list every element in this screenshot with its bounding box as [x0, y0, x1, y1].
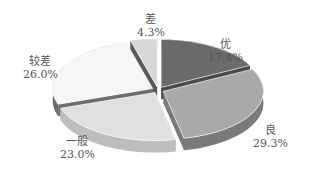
- label-cha: 差 4.3%: [137, 13, 165, 39]
- label-cha-pct: 4.3%: [137, 26, 165, 39]
- label-liang-name: 良: [253, 124, 288, 137]
- label-jiaocha-name: 较差: [23, 55, 58, 68]
- label-yiban-name: 一般: [60, 135, 95, 148]
- label-jiaocha-pct: 26.0%: [23, 68, 58, 81]
- label-yiban: 一般 23.0%: [60, 135, 95, 161]
- label-you: 优 17.4%: [208, 38, 243, 64]
- label-yiban-pct: 23.0%: [60, 148, 95, 161]
- label-you-pct: 17.4%: [208, 51, 243, 64]
- label-jiaocha: 较差 26.0%: [23, 55, 58, 81]
- label-liang: 良 29.3%: [253, 124, 288, 150]
- label-liang-pct: 29.3%: [253, 137, 288, 150]
- label-you-name: 优: [208, 38, 243, 51]
- label-cha-name: 差: [137, 13, 165, 26]
